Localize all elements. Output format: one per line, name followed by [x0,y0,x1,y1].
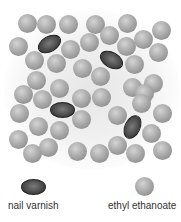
particle-diagram: nail varnish ethyl ethanoate [0,0,181,222]
ethyl-ethanoate-particle [153,141,172,160]
ethyl-ethanoate-particle [90,144,109,163]
ethyl-ethanoate-particle [50,79,69,98]
ethyl-ethanoate-particle [149,43,168,62]
ethyl-ethanoate-particle [108,106,127,125]
ethyl-ethanoate-particle [29,117,48,136]
ethyl-ethanoate-particle [9,130,28,149]
ethyl-ethanoate-particle [100,26,119,45]
ethyl-ethanoate-particle [132,94,151,113]
ethyl-ethanoate-particle [61,40,80,59]
ethyl-ethanoate-particle [59,15,78,34]
ethyl-ethanoate-particle [142,124,161,143]
ethyl-ethanoate-particle [153,104,172,123]
ethyl-ethanoate-particle [91,67,110,86]
ethyl-ethanoate-particle [72,89,91,108]
ethyl-ethanoate-particle [117,37,136,56]
ethyl-ethanoate-particle [92,88,111,107]
ethyl-ethanoate-particle [125,55,144,74]
ethyl-ethanoate-particle [68,142,87,161]
ethyl-ethanoate-particle [9,37,28,56]
ethyl-ethanoate-particle [47,54,66,73]
ethyl-ethanoate-particle [50,121,69,140]
ethyl-ethanoate-particle [118,14,137,33]
ethyl-ethanoate-particle [14,85,33,104]
legend-label-nail-varnish: nail varnish [8,200,59,211]
ethyl-ethanoate-particle [10,104,29,123]
ethyl-ethanoate-particle [39,138,58,157]
ethyl-ethanoate-legend-icon [135,177,154,196]
ethyl-ethanoate-particle [18,14,37,33]
ethyl-ethanoate-particle [134,30,153,49]
ethyl-ethanoate-particle [73,59,92,78]
ethyl-ethanoate-particle [25,51,44,70]
nail-varnish-legend-icon [21,179,46,195]
nail-varnish-particle [50,102,75,118]
ethyl-ethanoate-particle [37,15,56,34]
ethyl-ethanoate-particle [80,33,99,52]
ethyl-ethanoate-particle [33,90,52,109]
ethyl-ethanoate-particle [72,110,91,129]
ethyl-ethanoate-particle [152,21,171,40]
ethyl-ethanoate-particle [126,144,145,163]
ethyl-ethanoate-particle [108,136,127,155]
legend-label-ethyl-ethanoate: ethyl ethanoate [108,200,176,211]
